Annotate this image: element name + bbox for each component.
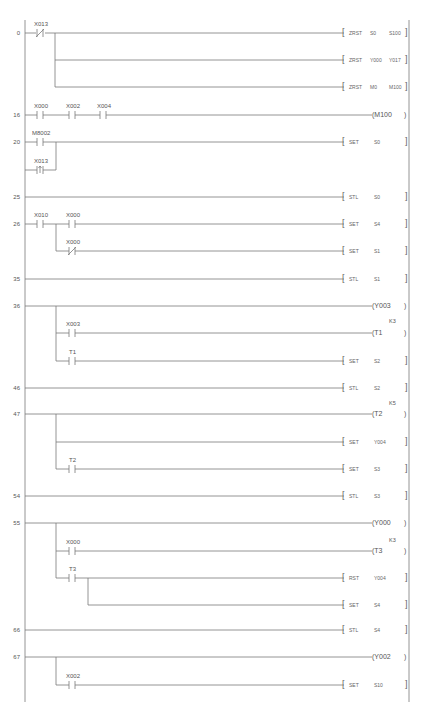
instruction-arg: Y004 [374, 573, 386, 583]
instruction-op: ZRST [349, 55, 362, 65]
close-bracket: ] [405, 436, 408, 446]
instruction-op: STL [349, 383, 358, 393]
contact-label: X013 [34, 21, 48, 28]
close-bracket: ] [405, 355, 408, 365]
instruction-op: ZRST [349, 28, 362, 38]
instruction-arg: S3 [374, 464, 380, 474]
instruction-op: RST [349, 573, 359, 583]
coil-close: ) [404, 328, 406, 338]
contact-label: X010 [34, 212, 48, 219]
close-bracket: ] [405, 679, 408, 689]
step-number: 0 [4, 30, 20, 37]
close-bracket: ] [405, 245, 408, 255]
instruction-arg: S0 [374, 137, 380, 147]
instruction-arg: S10 [374, 680, 383, 690]
instruction-arg: S100 [389, 28, 401, 38]
ladder-wiring [0, 0, 423, 714]
output-coil: (M100 [372, 110, 392, 120]
coil-close: ) [404, 409, 406, 419]
coil-close: ) [404, 518, 406, 528]
coil-close: ) [404, 301, 406, 311]
output-coil: (Y000 [372, 518, 391, 528]
step-number: 35 [4, 276, 20, 283]
step-number: 47 [4, 411, 20, 418]
instruction-op: SET [349, 246, 359, 256]
close-bracket: ] [405, 191, 408, 201]
contact-label: X013 [34, 158, 48, 165]
close-bracket: ] [405, 463, 408, 473]
close-bracket: ] [405, 136, 408, 146]
ladder-diagram: 0 16 20 25 26 35 36 46 47 54 55 66 67 X0… [0, 0, 423, 714]
instruction-op: SET [349, 356, 359, 366]
contact-label: X002 [66, 103, 80, 110]
contact-label: X000 [66, 239, 80, 246]
instruction-arg: Y000 [370, 55, 382, 65]
instruction-arg: M100 [389, 82, 402, 92]
instruction-arg: S4 [374, 219, 380, 229]
open-bracket: [ [342, 624, 345, 634]
instruction-arg: Y017 [389, 55, 401, 65]
open-bracket: [ [342, 245, 345, 255]
open-bracket: [ [342, 679, 345, 689]
close-bracket: ] [405, 273, 408, 283]
instruction-arg: S0 [374, 192, 380, 202]
instruction-op: STL [349, 625, 358, 635]
close-bracket: ] [405, 54, 408, 64]
open-bracket: [ [342, 54, 345, 64]
open-bracket: [ [342, 273, 345, 283]
instruction-arg: S4 [374, 600, 380, 610]
open-bracket: [ [342, 599, 345, 609]
contact-label: M8002 [32, 130, 50, 137]
close-bracket: ] [405, 81, 408, 91]
contact-label: X000 [66, 212, 80, 219]
step-number: 36 [4, 303, 20, 310]
contact-label: T3 [69, 566, 76, 573]
step-number: 46 [4, 385, 20, 392]
open-bracket: [ [342, 382, 345, 392]
instruction-arg: S1 [374, 246, 380, 256]
instruction-op: STL [349, 274, 358, 284]
open-bracket: [ [342, 355, 345, 365]
step-number: 55 [4, 520, 20, 527]
instruction-op: SET [349, 437, 359, 447]
instruction-arg: S1 [374, 274, 380, 284]
open-bracket: [ [342, 27, 345, 37]
close-bracket: ] [405, 490, 408, 500]
timer-coil: (T2 [372, 409, 383, 419]
open-bracket: [ [342, 191, 345, 201]
output-coil: (Y002 [372, 652, 391, 662]
close-bracket: ] [405, 218, 408, 228]
open-bracket: [ [342, 218, 345, 228]
contact-label: X000 [66, 539, 80, 546]
step-number: 25 [4, 194, 20, 201]
open-bracket: [ [342, 81, 345, 91]
coil-close: ) [404, 110, 406, 120]
contact-label: X003 [66, 321, 80, 328]
instruction-arg: Y004 [374, 437, 386, 447]
open-bracket: [ [342, 490, 345, 500]
step-number: 20 [4, 139, 20, 146]
close-bracket: ] [405, 599, 408, 609]
instruction-arg: S2 [374, 356, 380, 366]
contact-label: X004 [97, 103, 111, 110]
timer-coil: (T3 [372, 546, 383, 556]
timer-constant: K3 [389, 537, 396, 543]
close-bracket: ] [405, 572, 408, 582]
output-coil: (Y003 [372, 301, 391, 311]
step-number: 66 [4, 627, 20, 634]
close-bracket: ] [405, 27, 408, 37]
contact-label: T1 [69, 349, 76, 356]
open-bracket: [ [342, 572, 345, 582]
coil-close: ) [404, 652, 406, 662]
instruction-op: SET [349, 464, 359, 474]
instruction-arg: S2 [374, 383, 380, 393]
contact-label: T2 [69, 457, 76, 464]
open-bracket: [ [342, 436, 345, 446]
instruction-op: SET [349, 219, 359, 229]
step-number: 26 [4, 221, 20, 228]
step-number: 16 [4, 112, 20, 119]
timer-constant: K3 [389, 318, 396, 324]
instruction-op: STL [349, 192, 358, 202]
instruction-op: SET [349, 600, 359, 610]
open-bracket: [ [342, 136, 345, 146]
